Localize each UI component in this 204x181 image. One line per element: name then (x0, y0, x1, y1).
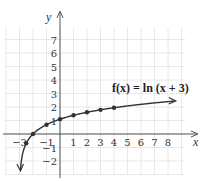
x-tick-label: 1 (70, 137, 76, 148)
y-tick-label: 5 (51, 62, 57, 73)
data-point (44, 122, 48, 126)
y-tick-label: 7 (51, 35, 57, 46)
x-tick-label: 6 (138, 137, 144, 148)
equation-annotation: f(x) = ln (x + 3) (112, 81, 189, 95)
data-point (98, 108, 102, 112)
x-tick-label: 5 (124, 137, 130, 148)
y-tick-label: 3 (51, 89, 57, 100)
y-axis-label: y (45, 10, 52, 24)
x-tick-label: 4 (111, 137, 117, 148)
y-tick-label: −1 (42, 143, 57, 154)
x-axis-label: x (192, 135, 199, 149)
data-point (112, 105, 116, 109)
data-point (58, 117, 62, 121)
x-tick-label: 3 (97, 137, 103, 148)
y-tick-label: 2 (51, 102, 57, 113)
data-point (85, 110, 89, 114)
y-tick-label: 4 (51, 75, 57, 86)
data-point (31, 132, 35, 136)
grid-lines (5, 28, 185, 175)
log-function-chart: −3−112345678−2−11234567 f(x) = ln (x + 3… (0, 0, 204, 181)
y-tick-label: 6 (51, 48, 57, 59)
data-point (24, 141, 28, 145)
x-tick-label: 7 (151, 137, 157, 148)
y-tick-label: −2 (42, 156, 57, 167)
data-point (71, 113, 75, 117)
x-tick-label: 8 (165, 137, 171, 148)
x-tick-label: 2 (84, 137, 90, 148)
